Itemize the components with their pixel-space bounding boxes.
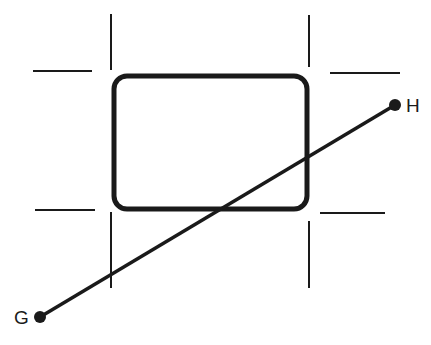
diagram-canvas: G H	[0, 0, 431, 345]
point-h-dot	[389, 99, 401, 111]
point-g-label: G	[14, 307, 29, 328]
rounded-rectangle	[114, 76, 307, 209]
point-g-dot	[34, 311, 46, 323]
point-h-label: H	[406, 95, 420, 116]
